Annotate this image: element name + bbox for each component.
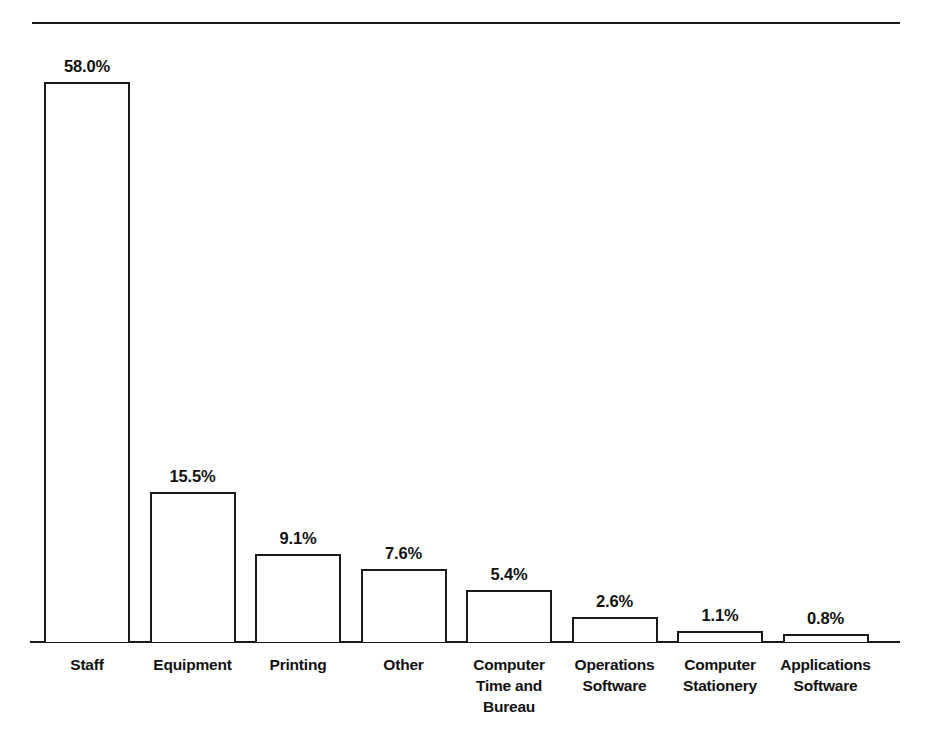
bar-value-label: 7.6% bbox=[339, 544, 469, 563]
plot-area: 58.0%15.5%9.1%7.6%5.4%2.6%1.1%0.8% Staff… bbox=[0, 0, 930, 744]
bar-value-label: 5.4% bbox=[444, 565, 574, 584]
bar bbox=[572, 617, 658, 642]
category-label-line: Software bbox=[759, 675, 893, 696]
bar bbox=[150, 492, 236, 642]
bar bbox=[44, 82, 130, 642]
bar-value-label: 0.8% bbox=[761, 609, 891, 628]
bar-value-label: 15.5% bbox=[128, 467, 258, 486]
bar-value-label: 58.0% bbox=[22, 57, 152, 76]
category-label-line: Applications bbox=[759, 654, 893, 675]
category-label: ApplicationsSoftware bbox=[759, 654, 893, 696]
category-label-line: Bureau bbox=[442, 696, 576, 717]
bar-chart-figure: 58.0%15.5%9.1%7.6%5.4%2.6%1.1%0.8% Staff… bbox=[0, 0, 930, 744]
bar bbox=[677, 631, 763, 642]
bar bbox=[361, 569, 447, 642]
bar bbox=[255, 554, 341, 642]
bar bbox=[783, 634, 869, 642]
bar bbox=[466, 590, 552, 642]
